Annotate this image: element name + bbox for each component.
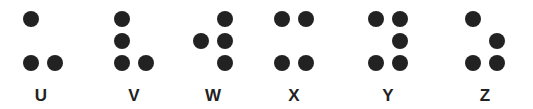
- letter-label: Z: [465, 86, 505, 106]
- letter-label: X: [274, 86, 314, 106]
- braille-dot-6: [298, 55, 314, 71]
- letter-label: W: [193, 86, 233, 106]
- braille-dot-3: [23, 55, 39, 71]
- braille-dot-6: [138, 55, 154, 71]
- braille-dot-6: [392, 55, 408, 71]
- braille-dot-3: [114, 55, 130, 71]
- braille-dot-5: [392, 33, 408, 49]
- braille-dot-1: [368, 11, 384, 27]
- braille-dot-4: [392, 11, 408, 27]
- braille-dot-3: [465, 55, 481, 71]
- letter-label: V: [114, 86, 154, 106]
- braille-cell-z: Z: [465, 0, 525, 109]
- braille-dot-2: [193, 33, 209, 49]
- braille-dot-3: [368, 55, 384, 71]
- braille-cell-w: W: [193, 0, 253, 109]
- braille-dot-2: [114, 33, 130, 49]
- braille-cell-x: X: [274, 0, 334, 109]
- braille-cell-u: U: [23, 0, 83, 109]
- braille-dot-5: [217, 33, 233, 49]
- braille-dot-6: [47, 55, 63, 71]
- braille-dot-5: [489, 33, 505, 49]
- braille-dot-4: [217, 11, 233, 27]
- braille-dot-1: [114, 11, 130, 27]
- braille-dot-1: [465, 11, 481, 27]
- braille-dot-1: [274, 11, 290, 27]
- braille-cell-y: Y: [368, 0, 428, 109]
- braille-dot-4: [298, 11, 314, 27]
- braille-dot-1: [23, 11, 39, 27]
- braille-dot-3: [274, 55, 290, 71]
- braille-cell-v: V: [114, 0, 174, 109]
- braille-dot-6: [217, 55, 233, 71]
- letter-label: U: [21, 86, 61, 106]
- letter-label: Y: [368, 86, 408, 106]
- braille-dot-6: [489, 55, 505, 71]
